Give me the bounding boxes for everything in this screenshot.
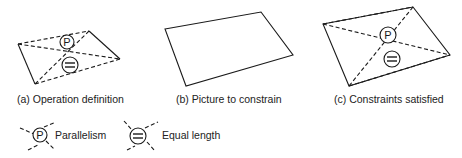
svg-text:P: P (36, 129, 43, 141)
parallelism-icon: P (60, 35, 74, 49)
edge-right (89, 31, 120, 59)
equal-length-icon (384, 51, 400, 67)
quadrilateral (165, 12, 293, 86)
caption-c: (c) Constraints satisfied (334, 93, 444, 105)
panel-b-picture-to-constrain (165, 12, 293, 86)
legend-label-equal-length: Equal length (162, 129, 220, 141)
svg-text:P: P (384, 29, 391, 41)
caption-b: (b) Picture to constrain (176, 93, 282, 105)
caption-a: (a) Operation definition (17, 93, 124, 105)
parallelism-icon: P (380, 27, 396, 43)
panel-a-operation-definition: P (18, 31, 120, 84)
legend-equal-length-symbol (124, 121, 158, 151)
diagonal-2 (349, 7, 413, 86)
panel-c-constraints-satisfied: P (323, 7, 450, 86)
legend-parallelism-symbol: P (20, 122, 56, 150)
equal-length-icon (62, 57, 78, 73)
edge-left (18, 44, 35, 84)
svg-text:P: P (63, 36, 70, 48)
legend-label-parallelism: Parallelism (55, 129, 106, 141)
